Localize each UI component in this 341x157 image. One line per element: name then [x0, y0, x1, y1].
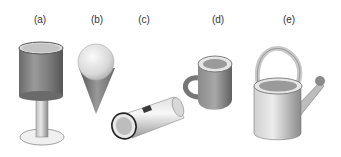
mug-object: [185, 56, 232, 110]
flashlight-object: [108, 96, 186, 142]
watering-can-object: [254, 48, 325, 139]
goblet-object: [19, 42, 64, 145]
figure-canvas: [0, 0, 341, 157]
cone-object: [78, 44, 115, 114]
